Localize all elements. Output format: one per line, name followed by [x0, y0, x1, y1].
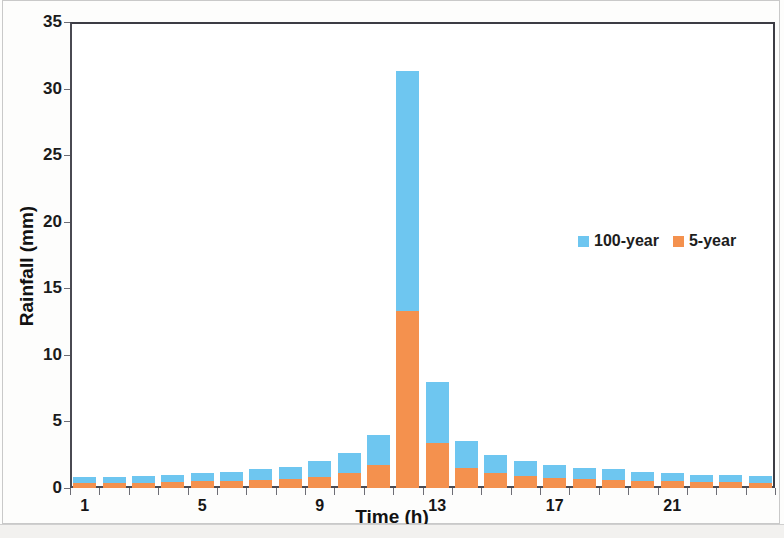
bar-group[interactable] [423, 22, 452, 488]
bar-5-year[interactable] [690, 482, 713, 488]
y-tick-label: 25 [0, 145, 62, 165]
legend-item[interactable]: 5-year [673, 232, 736, 250]
bar-group[interactable] [305, 22, 334, 488]
x-tick-mark [569, 488, 570, 495]
x-tick-mark [276, 488, 277, 495]
bar-5-year[interactable] [396, 311, 419, 488]
bar-5-year[interactable] [602, 480, 625, 488]
x-tick-mark [775, 488, 776, 495]
bar-group[interactable] [70, 22, 99, 488]
bar-5-year[interactable] [661, 481, 684, 488]
legend-label: 5-year [689, 232, 736, 250]
bar-5-year[interactable] [514, 476, 537, 488]
bar-5-year[interactable] [191, 481, 214, 488]
x-tick-mark [99, 488, 100, 495]
bar-series-container [70, 22, 775, 488]
y-tick-label: 35 [0, 12, 62, 32]
bar-group[interactable] [129, 22, 158, 488]
bar-group[interactable] [334, 22, 363, 488]
x-tick-mark [716, 488, 717, 495]
bar-group[interactable] [599, 22, 628, 488]
y-tick-label: 15 [0, 278, 62, 298]
bar-group[interactable] [276, 22, 305, 488]
x-tick-mark [481, 488, 482, 495]
chart-legend: 100-year5-year [578, 232, 736, 250]
x-tick-mark [334, 488, 335, 495]
x-tick-mark [364, 488, 365, 495]
bar-group[interactable] [658, 22, 687, 488]
x-tick-mark [628, 488, 629, 495]
legend-swatch-icon [578, 236, 589, 247]
bar-group[interactable] [217, 22, 246, 488]
bar-group[interactable] [393, 22, 422, 488]
bar-group[interactable] [158, 22, 187, 488]
bar-5-year[interactable] [484, 473, 507, 488]
x-tick-mark [540, 488, 541, 495]
x-tick-mark [393, 488, 394, 495]
bar-5-year[interactable] [220, 481, 243, 488]
x-tick-mark [188, 488, 189, 495]
chart-page: Rainfall (mm) 35302520151050 159131721 T… [0, 0, 784, 538]
x-tick-mark [217, 488, 218, 495]
bar-5-year[interactable] [719, 482, 742, 488]
bar-group[interactable] [540, 22, 569, 488]
bar-5-year[interactable] [132, 483, 155, 488]
y-tick-label: 0 [0, 478, 62, 498]
x-tick-mark [129, 488, 130, 495]
x-tick-mark [70, 488, 71, 495]
x-tick-mark [658, 488, 659, 495]
legend-label: 100-year [594, 232, 659, 250]
bar-5-year[interactable] [543, 478, 566, 488]
bar-group[interactable] [188, 22, 217, 488]
bar-5-year[interactable] [573, 479, 596, 488]
bar-group[interactable] [364, 22, 393, 488]
x-tick-mark [158, 488, 159, 495]
bar-group[interactable] [716, 22, 745, 488]
bar-5-year[interactable] [338, 473, 361, 488]
bar-group[interactable] [687, 22, 716, 488]
bar-group[interactable] [452, 22, 481, 488]
x-tick-mark [305, 488, 306, 495]
bar-group[interactable] [481, 22, 510, 488]
bar-group[interactable] [569, 22, 598, 488]
bar-5-year[interactable] [749, 483, 772, 488]
legend-swatch-icon [673, 236, 684, 247]
bar-group[interactable] [511, 22, 540, 488]
y-tick-label: 30 [0, 79, 62, 99]
bar-5-year[interactable] [279, 479, 302, 488]
bar-5-year[interactable] [631, 481, 654, 488]
legend-item[interactable]: 100-year [578, 232, 659, 250]
y-tick-label: 5 [0, 411, 62, 431]
y-tick-label: 10 [0, 345, 62, 365]
bar-5-year[interactable] [73, 483, 96, 488]
bar-group[interactable] [246, 22, 275, 488]
x-tick-mark [423, 488, 424, 495]
bar-5-year[interactable] [367, 465, 390, 488]
x-tick-mark [599, 488, 600, 495]
bar-5-year[interactable] [161, 482, 184, 488]
bar-group[interactable] [99, 22, 128, 488]
x-tick-mark [746, 488, 747, 495]
bar-group[interactable] [628, 22, 657, 488]
bar-5-year[interactable] [103, 483, 126, 488]
bar-5-year[interactable] [426, 443, 449, 488]
x-tick-mark [452, 488, 453, 495]
bar-group[interactable] [746, 22, 775, 488]
y-tick-label: 20 [0, 212, 62, 232]
bar-5-year[interactable] [455, 468, 478, 488]
rainfall-hyetograph-chart: Rainfall (mm) 35302520151050 159131721 T… [0, 0, 784, 538]
x-tick-mark [687, 488, 688, 495]
x-tick-mark [511, 488, 512, 495]
page-bottom-edge [0, 524, 784, 538]
bar-5-year[interactable] [308, 477, 331, 488]
bar-5-year[interactable] [249, 480, 272, 488]
x-tick-mark [246, 488, 247, 495]
